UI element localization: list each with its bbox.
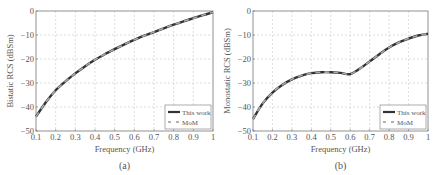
y-tick-label: −10 — [238, 30, 251, 40]
x-tick-label: 0.3 — [70, 132, 81, 142]
y-tick-label: −20 — [238, 54, 251, 64]
series-mom — [36, 12, 213, 116]
legend: This workMoM — [380, 105, 426, 129]
x-tick-label: 1 — [211, 132, 215, 142]
panel-label: (b) — [335, 160, 347, 172]
y-tick-label: 0 — [247, 6, 251, 16]
x-axis-label: Frequency (GHz) — [95, 144, 155, 154]
y-tick-label: −40 — [21, 102, 34, 112]
y-tick-label: −20 — [21, 54, 34, 64]
y-tick-label: −30 — [21, 78, 34, 88]
x-tick-label: 0.6 — [129, 132, 140, 142]
x-tick-label: 0.9 — [188, 132, 199, 142]
y-axis-label: Bistatic RCS (dBSm) — [5, 34, 15, 107]
x-axis-label: Frequency (GHz) — [311, 144, 371, 154]
x-tick-label: 0.4 — [90, 132, 101, 142]
x-tick-label: 0.7 — [149, 132, 160, 142]
y-tick-label: −40 — [238, 102, 251, 112]
chart-b: 0.10.20.30.40.50.60.70.80.910−10−20−30−4… — [217, 0, 439, 175]
x-tick-label: 0.8 — [384, 132, 395, 142]
x-tick-label: 1 — [426, 132, 430, 142]
y-tick-label: −50 — [21, 126, 34, 136]
x-tick-label: 0.5 — [109, 132, 120, 142]
legend-label-this-work: This work — [397, 109, 426, 117]
x-tick-label: 0.8 — [168, 132, 179, 142]
x-tick-label: 0.9 — [403, 132, 414, 142]
series-this-work — [36, 12, 213, 116]
x-tick-label: 0.2 — [267, 132, 278, 142]
x-tick-label: 0.7 — [364, 132, 375, 142]
x-tick-label: 0.5 — [325, 132, 336, 142]
y-axis-label: Monostatic RCS (dBSm) — [222, 28, 232, 114]
y-tick-label: −10 — [21, 30, 34, 40]
x-tick-label: 0.4 — [306, 132, 317, 142]
legend-label-this-work: This work — [182, 109, 211, 117]
y-tick-label: −50 — [238, 126, 251, 136]
legend-label-mom: MoM — [182, 119, 199, 127]
legend: This workMoM — [165, 105, 211, 129]
chart-a: 0.10.20.30.40.50.60.70.80.910−10−20−30−4… — [0, 0, 220, 175]
y-tick-label: −30 — [238, 78, 251, 88]
legend-label-mom: MoM — [397, 119, 414, 127]
y-tick-label: 0 — [30, 6, 34, 16]
x-tick-label: 0.6 — [345, 132, 356, 142]
panel-label: (a) — [119, 160, 130, 172]
x-tick-label: 0.2 — [50, 132, 61, 142]
x-tick-label: 0.3 — [287, 132, 298, 142]
